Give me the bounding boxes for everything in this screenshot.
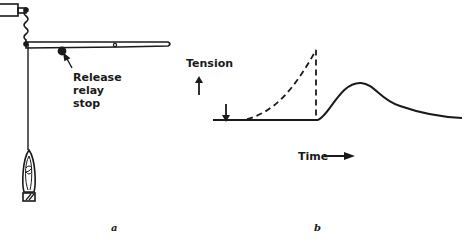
x-axis-label: Time <box>298 150 328 163</box>
pivot-icon <box>113 43 116 46</box>
tension-graph-panel-b <box>195 50 462 160</box>
lever <box>26 42 170 48</box>
clamp <box>0 4 18 16</box>
y-axis-label: Tension <box>186 57 233 70</box>
solid-tension-curve <box>318 83 462 120</box>
release-relay-stop-label: Release relay stop <box>73 71 122 110</box>
dashed-tension-curve <box>247 50 316 120</box>
spring-icon <box>24 10 28 44</box>
panel-a-label: a <box>111 222 117 233</box>
panel-b-label: b <box>314 222 321 233</box>
diagram-canvas <box>0 0 465 239</box>
